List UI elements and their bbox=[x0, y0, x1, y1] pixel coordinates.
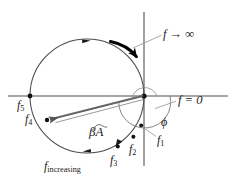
leader-f-infinity bbox=[133, 35, 162, 48]
label-f-increasing: fincreasing bbox=[44, 160, 81, 174]
leader-lines-group bbox=[133, 35, 176, 136]
f-to-infinity-curved-arrow-group bbox=[111, 42, 137, 57]
nyquist-diagram-figure: f → ∞ f = 0 ϕ βA f1 f2 f3 f4 f5 fincreas… bbox=[0, 0, 234, 184]
beta-a-vector-lower-rule bbox=[56, 100, 144, 123]
point-f2 bbox=[131, 135, 135, 139]
beta-a-vector-upper-rule bbox=[53, 96, 144, 119]
point-f4 bbox=[45, 118, 49, 122]
label-f1: f1 bbox=[157, 134, 164, 148]
label-f4: f4 bbox=[25, 113, 32, 127]
label-f-equals-zero: f = 0 bbox=[178, 94, 202, 107]
leader-f-zero bbox=[155, 101, 176, 108]
point-f3 bbox=[116, 145, 120, 149]
label-f-to-infinity: f → ∞ bbox=[163, 28, 194, 41]
point-f5 bbox=[28, 94, 33, 99]
label-f2: f2 bbox=[129, 143, 136, 157]
label-f5: f5 bbox=[17, 99, 24, 113]
label-f3: f3 bbox=[110, 154, 117, 168]
label-beta-a: βA bbox=[89, 125, 103, 138]
locus-points-group bbox=[28, 93, 147, 148]
f-to-infinity-curved-arrow bbox=[111, 42, 137, 57]
circle-direction-arrow-bottom bbox=[83, 149, 91, 153]
label-phi: ϕ bbox=[161, 116, 167, 128]
circle-direction-arrow-top bbox=[82, 40, 91, 44]
beta-a-vector-arrow bbox=[50, 96, 143, 119]
beta-a-vector-group bbox=[50, 96, 143, 123]
